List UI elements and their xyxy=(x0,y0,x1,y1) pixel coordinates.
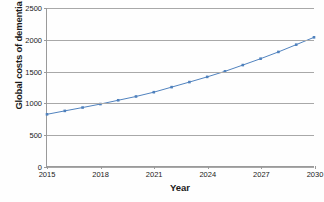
data-point-2029 xyxy=(295,43,298,46)
data-point-2027 xyxy=(259,57,262,60)
data-point-2023 xyxy=(188,81,191,84)
x-tick-label-2018: 2018 xyxy=(92,170,109,179)
x-axis-title: Year xyxy=(46,182,314,193)
y-tick-mark-1500 xyxy=(44,72,47,73)
x-tick-mark-2021 xyxy=(154,166,155,169)
data-point-2016 xyxy=(64,110,67,113)
gridline-y-2000 xyxy=(47,40,314,41)
data-point-2017 xyxy=(81,106,84,109)
data-point-2030 xyxy=(313,36,316,39)
y-tick-label-2000: 2000 xyxy=(25,35,42,44)
data-point-2022 xyxy=(170,86,173,89)
x-tick-label-2030: 2030 xyxy=(307,170,324,179)
data-point-2019 xyxy=(117,99,120,102)
y-axis-title: Global costs of dementia (bill. US$) xyxy=(13,0,24,114)
x-tick-label-2024: 2024 xyxy=(199,170,216,179)
gridline-y-1000 xyxy=(47,103,314,104)
data-point-2024 xyxy=(206,76,209,79)
x-tick-mark-2030 xyxy=(315,166,316,169)
line-series-dementia-costs xyxy=(47,8,314,166)
gridline-y-2500 xyxy=(47,8,314,9)
data-point-2015 xyxy=(46,113,49,116)
x-tick-mark-2018 xyxy=(101,166,102,169)
data-point-2028 xyxy=(277,51,280,54)
y-tick-label-2500: 2500 xyxy=(25,4,42,13)
gridline-y-500 xyxy=(47,135,314,136)
y-tick-label-1500: 1500 xyxy=(25,67,42,76)
gridline-y-1500 xyxy=(47,72,314,73)
x-tick-mark-2027 xyxy=(261,166,262,169)
data-point-2020 xyxy=(135,95,138,98)
chart-container: Global costs of dementia (bill. US$) 050… xyxy=(0,0,324,202)
data-point-2021 xyxy=(153,91,156,94)
y-tick-mark-1000 xyxy=(44,103,47,104)
y-tick-label-500: 500 xyxy=(29,131,42,140)
gridline-y-0 xyxy=(47,167,314,168)
y-tick-mark-2500 xyxy=(44,8,47,9)
y-tick-mark-500 xyxy=(44,135,47,136)
x-tick-mark-2015 xyxy=(47,166,48,169)
x-tick-label-2015: 2015 xyxy=(39,170,56,179)
plot-area: 0500100015002000250020152018202120242027… xyxy=(46,8,314,167)
x-tick-label-2027: 2027 xyxy=(253,170,270,179)
y-tick-label-1000: 1000 xyxy=(25,99,42,108)
y-tick-mark-2000 xyxy=(44,40,47,41)
x-tick-mark-2024 xyxy=(208,166,209,169)
data-point-2026 xyxy=(242,64,245,67)
x-tick-label-2021: 2021 xyxy=(146,170,163,179)
